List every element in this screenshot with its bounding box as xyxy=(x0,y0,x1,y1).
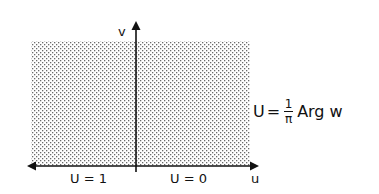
v-axis-label: v xyxy=(118,24,126,39)
shaded-upper-half-plane xyxy=(31,41,250,166)
fraction-numerator: 1 xyxy=(285,98,293,110)
formula-lhs: U xyxy=(253,102,265,121)
formula: U = 1 π Arg w xyxy=(253,98,343,125)
boundary-label-right: U = 0 xyxy=(170,171,207,186)
boundary-label-left: U = 1 xyxy=(70,171,107,186)
formula-equals: = xyxy=(267,102,280,121)
u-axis-label: u xyxy=(251,171,259,186)
v-axis-arrowhead xyxy=(132,21,141,30)
fraction-denominator: π xyxy=(285,113,292,125)
u-axis-right-arrowhead xyxy=(250,162,259,171)
half-plane-diagram xyxy=(0,0,379,194)
formula-rhs: Arg w xyxy=(297,102,343,121)
formula-fraction: 1 π xyxy=(284,98,293,125)
